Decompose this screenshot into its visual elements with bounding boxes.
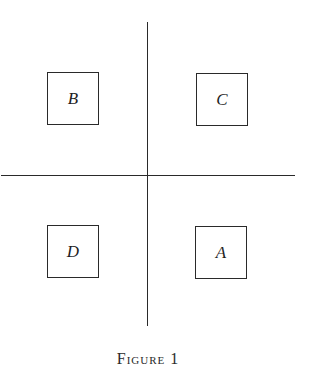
figure-caption: Figure 1: [0, 350, 296, 368]
horizontal-axis-line: [1, 175, 295, 176]
box-d-label: D: [67, 243, 79, 260]
quadrant-diagram: B C D A Figure 1: [0, 0, 310, 371]
box-a-label: A: [216, 244, 226, 261]
box-a: A: [195, 226, 247, 279]
box-b-label: B: [68, 90, 78, 107]
box-c: C: [196, 73, 248, 126]
box-b: B: [47, 72, 99, 125]
box-c-label: C: [216, 91, 227, 108]
box-d: D: [47, 225, 99, 278]
vertical-axis-line: [147, 22, 148, 326]
